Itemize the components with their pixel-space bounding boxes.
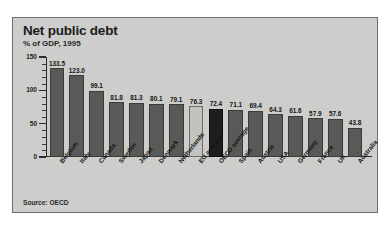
bar-value-label: 99.1 bbox=[83, 82, 110, 89]
chart-title: Net public debt bbox=[23, 23, 118, 38]
bar-value-label: 123.0 bbox=[63, 67, 90, 74]
y-tick-major bbox=[39, 56, 46, 57]
y-tick-minor bbox=[42, 84, 46, 85]
y-tick-minor bbox=[42, 110, 46, 111]
y-tick-label: 0 bbox=[13, 153, 37, 160]
chart-panel: Net public debt % of GDP, 1995 050100150… bbox=[12, 17, 378, 213]
y-tick-label: 50 bbox=[13, 120, 37, 127]
y-tick-major bbox=[39, 90, 46, 91]
bar bbox=[89, 91, 104, 157]
y-tick-minor bbox=[42, 130, 46, 131]
chart-subtitle: % of GDP, 1995 bbox=[23, 39, 81, 48]
y-tick-minor bbox=[42, 150, 46, 151]
y-tick-major bbox=[39, 156, 46, 157]
y-tick-minor bbox=[42, 137, 46, 138]
y-tick-minor bbox=[42, 70, 46, 71]
bar-value-label: 133.5 bbox=[44, 60, 71, 67]
y-tick-minor bbox=[42, 77, 46, 78]
y-tick-major bbox=[39, 123, 46, 124]
bar bbox=[288, 116, 303, 157]
y-tick-minor bbox=[42, 117, 46, 118]
bar-value-label: 43.8 bbox=[342, 119, 369, 126]
bar-value-label: 57.6 bbox=[322, 110, 349, 117]
y-tick-label: 100 bbox=[13, 86, 37, 93]
y-tick-label: 150 bbox=[13, 53, 37, 60]
source-note: Source: OECD bbox=[23, 199, 68, 206]
y-tick-minor bbox=[42, 97, 46, 98]
y-tick-minor bbox=[42, 104, 46, 105]
bar bbox=[50, 68, 65, 157]
y-tick-minor bbox=[42, 144, 46, 145]
